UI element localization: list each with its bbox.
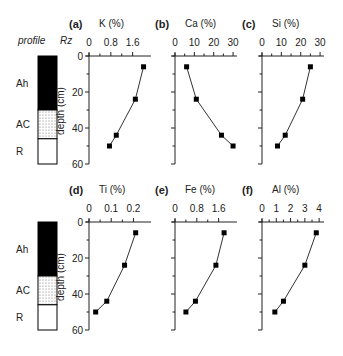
- x-tick-label: 2: [288, 203, 294, 214]
- x-tick-label: 0: [86, 203, 92, 214]
- panel-c: (c)Si (%)0102030: [242, 18, 326, 164]
- x-tick-label: 0: [259, 203, 265, 214]
- horizon-label: AC: [16, 285, 30, 296]
- panel-letter: (c): [242, 18, 256, 30]
- x-tick-label: 4: [316, 203, 322, 214]
- data-point-marker: [193, 299, 198, 304]
- data-point-marker: [300, 97, 305, 102]
- y-tick-label: 60: [72, 325, 84, 336]
- panel-title: Al (%): [272, 184, 299, 195]
- data-point-marker: [122, 263, 127, 268]
- data-line: [187, 67, 233, 146]
- data-point-marker: [104, 299, 109, 304]
- x-tick-label: 10: [189, 37, 201, 48]
- x-tick-label: 1.6: [212, 203, 226, 214]
- soil-profiles: AhACRAhACR: [16, 56, 57, 330]
- horizon-label: Ah: [16, 78, 28, 89]
- data-point-marker: [133, 230, 138, 235]
- data-point-marker: [114, 133, 119, 138]
- data-point-marker: [302, 263, 307, 268]
- profile-column: AhACR: [16, 222, 57, 330]
- panel-letter: (e): [155, 184, 169, 196]
- y-tick-label: 20: [72, 253, 84, 264]
- x-tick-label: 0: [86, 37, 92, 48]
- panel-title: Ca (%): [185, 18, 216, 29]
- data-point-marker: [219, 133, 224, 138]
- y-tick-label: 40: [72, 289, 84, 300]
- panel-letter: (b): [155, 18, 169, 30]
- panel-title: Si (%): [272, 18, 299, 29]
- data-point-marker: [93, 310, 98, 315]
- y-tick-label: 60: [72, 159, 84, 170]
- x-tick-label: 30: [315, 37, 327, 48]
- panel-title: Ti (%): [99, 184, 125, 195]
- data-point-marker: [231, 144, 236, 149]
- data-point-marker: [272, 310, 277, 315]
- x-tick-label: 20: [208, 37, 220, 48]
- x-tick-label: 20: [295, 37, 307, 48]
- y-tick-label: 0: [77, 51, 83, 62]
- panel-f: (f)Al (%)01234: [242, 184, 324, 330]
- data-point-marker: [141, 64, 146, 69]
- panel-letter: (a): [69, 18, 83, 30]
- x-tick-label: 1: [274, 203, 280, 214]
- x-tick-label: 0.1: [104, 203, 118, 214]
- data-line: [96, 233, 136, 312]
- data-point-marker: [184, 64, 189, 69]
- horizon-label: Ah: [16, 244, 28, 255]
- y-axis-label: depth (cm): [55, 253, 66, 301]
- panel-title: Fe (%): [185, 184, 215, 195]
- data-point-marker: [133, 97, 138, 102]
- horizon-r: [38, 139, 57, 164]
- panel-e: (e)Fe (%)00.81.6: [155, 184, 237, 330]
- x-tick-label: 0.2: [126, 203, 140, 214]
- panel-b: (b)Ca (%)0102030: [155, 18, 239, 164]
- panel-letter: (f): [242, 184, 253, 196]
- x-tick-label: 0.8: [104, 37, 118, 48]
- x-tick-label: 0: [172, 37, 178, 48]
- profile-header-label: profile: [17, 35, 46, 46]
- data-point-marker: [183, 310, 188, 315]
- data-line: [277, 67, 310, 146]
- horizon-r: [38, 305, 57, 330]
- panel-d: (d)Ti (%)00.10.20204060depth (cm): [55, 184, 151, 336]
- data-point-marker: [281, 299, 286, 304]
- horizon-label: AC: [16, 119, 30, 130]
- horizon-label: R: [16, 312, 23, 323]
- x-tick-label: 10: [276, 37, 288, 48]
- data-point-marker: [107, 144, 112, 149]
- x-tick-label: 0: [172, 203, 178, 214]
- y-axis-label: depth (cm): [55, 87, 66, 135]
- chart-panels: (a)K (%)00.81.60204060depth (cm)(b)Ca (%…: [55, 18, 326, 336]
- panel-title: K (%): [99, 18, 124, 29]
- y-tick-label: 20: [72, 87, 84, 98]
- data-point-marker: [314, 230, 319, 235]
- data-point-marker: [308, 64, 313, 69]
- y-tick-label: 0: [77, 217, 83, 228]
- panel-letter: (d): [69, 184, 83, 196]
- x-tick-label: 3: [302, 203, 308, 214]
- data-point-marker: [194, 97, 199, 102]
- horizon-label: R: [16, 146, 23, 157]
- x-tick-label: 1.6: [126, 37, 140, 48]
- soil-profile-element-figure: profile Rz AhACRAhACR (a)K (%)00.81.6020…: [0, 0, 343, 356]
- y-tick-label: 40: [72, 123, 84, 134]
- data-point-marker: [275, 144, 280, 149]
- rz-header-label: Rz: [60, 35, 72, 46]
- data-line: [186, 233, 224, 312]
- x-tick-label: 30: [228, 37, 240, 48]
- data-point-marker: [213, 263, 218, 268]
- data-point-marker: [283, 133, 288, 138]
- profile-column: AhACR: [16, 56, 57, 164]
- x-tick-label: 0: [259, 37, 265, 48]
- data-point-marker: [222, 230, 227, 235]
- x-tick-label: 0.8: [190, 203, 204, 214]
